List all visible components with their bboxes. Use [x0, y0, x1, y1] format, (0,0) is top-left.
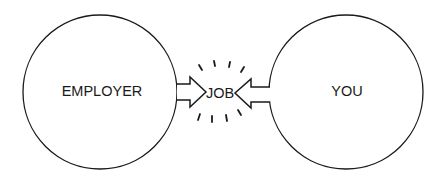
you-to-job-arrow-icon: [235, 79, 270, 108]
employer-to-job-arrow-icon: [177, 77, 206, 107]
diagram-canvas: EMPLOYER JOB YOU: [0, 0, 443, 183]
employer-label: EMPLOYER: [62, 84, 143, 99]
job-label: JOB: [206, 86, 234, 101]
you-label: YOU: [331, 84, 362, 99]
